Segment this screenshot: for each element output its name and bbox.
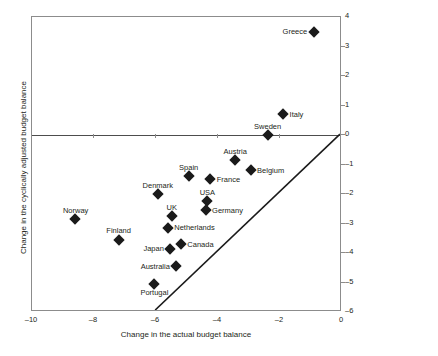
- data-point-label: Portugal: [140, 289, 168, 297]
- data-point-marker: [152, 188, 163, 199]
- y-axis-tick-label: –4: [345, 248, 353, 256]
- data-point-marker: [277, 109, 288, 120]
- x-axis-tick-label: –2: [275, 316, 283, 324]
- y-axis-tick-label: 3: [345, 42, 349, 50]
- data-point-label: Netherlands: [174, 224, 214, 232]
- data-point-marker: [229, 154, 240, 165]
- y-axis-tick-label: –6: [345, 307, 353, 315]
- data-point-label: Norway: [63, 207, 88, 215]
- data-point-marker: [183, 171, 194, 182]
- data-point-label: Denmark: [143, 182, 173, 190]
- y-axis-tick-mark: [341, 252, 345, 253]
- y-axis-tick-mark: [341, 75, 345, 76]
- data-point-label: Finland: [106, 227, 131, 235]
- data-point-marker: [262, 129, 273, 140]
- y-axis-tick-mark: [341, 46, 345, 47]
- y-axis-tick-mark: [341, 223, 345, 224]
- data-point-marker: [113, 234, 124, 245]
- data-point-label: Australia: [141, 263, 170, 271]
- data-point-label: UK: [167, 204, 177, 212]
- data-point-label: Japan: [143, 245, 163, 253]
- zero-line-tick-mark: [155, 134, 156, 138]
- x-axis-tick-label: –4: [213, 316, 221, 324]
- y-axis-tick-label: –2: [345, 189, 353, 197]
- data-point-marker: [164, 243, 175, 254]
- data-point-label: France: [217, 176, 240, 184]
- data-point-marker: [70, 213, 81, 224]
- x-axis-tick-label: 0: [339, 316, 343, 324]
- data-point-marker: [170, 261, 181, 272]
- y-axis-tick-mark: [341, 282, 345, 283]
- x-axis-tick-label: –6: [151, 316, 159, 324]
- y-axis-tick-mark: [341, 164, 345, 165]
- x-axis-tick-label: –8: [89, 316, 97, 324]
- scatter-chart-figure: GreeceItalySwedenAustriaBelgiumSpainFran…: [0, 0, 438, 356]
- zero-line-tick-mark: [279, 134, 280, 138]
- data-point-marker: [205, 174, 216, 185]
- data-point-label: Germany: [212, 207, 243, 215]
- x-axis-title: Change in the actual budget balance: [31, 330, 341, 339]
- y-axis-tick-label: –3: [345, 219, 353, 227]
- data-point-marker: [166, 210, 177, 221]
- y-axis-tick-label: –1: [345, 160, 353, 168]
- y-axis-tick-label: 4: [345, 12, 349, 20]
- y-axis-tick-label: 2: [345, 71, 349, 79]
- x-axis-tick-label: –10: [25, 316, 38, 324]
- data-point-marker: [162, 222, 173, 233]
- data-point-label: USA: [200, 189, 215, 197]
- y-axis-tick-label: –5: [345, 278, 353, 286]
- plot-area: GreeceItalySwedenAustriaBelgiumSpainFran…: [31, 16, 341, 311]
- zero-line-tick-mark: [217, 134, 218, 138]
- zero-line-tick-mark: [93, 134, 94, 138]
- data-point-marker: [200, 205, 211, 216]
- y-axis-tick-mark: [341, 193, 345, 194]
- y-axis-tick-label: 1: [345, 101, 349, 109]
- y-axis-tick-label: 0: [345, 130, 349, 138]
- data-point-marker: [308, 26, 319, 37]
- data-point-marker: [245, 165, 256, 176]
- data-point-label: Austria: [224, 148, 247, 156]
- data-point-label: Spain: [179, 164, 198, 172]
- y-axis-tick-mark: [341, 105, 345, 106]
- data-point-label: Belgium: [257, 167, 284, 175]
- y-axis-tick-mark: [341, 134, 345, 135]
- data-point-marker: [175, 238, 186, 249]
- data-point-label: Greece: [283, 28, 308, 36]
- zero-reference-line: [32, 135, 340, 136]
- y-axis-title: Change in the cyclically adjusted budget…: [19, 53, 28, 283]
- data-point-label: Canada: [187, 241, 213, 249]
- data-point-label: Sweden: [254, 123, 281, 131]
- data-point-label: Italy: [290, 111, 304, 119]
